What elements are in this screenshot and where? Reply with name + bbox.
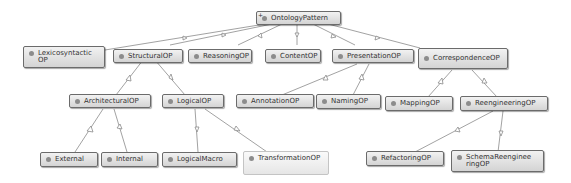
node-ontologypattern[interactable]: + OntologyPattern: [256, 11, 341, 25]
node-label: NamingOP: [331, 98, 368, 105]
node-transformationop[interactable]: TransformationOP: [243, 151, 329, 175]
node-label: AnnotationOP: [251, 98, 299, 105]
node-structuralop[interactable]: StructuralOP: [113, 49, 183, 63]
node-reasoningop[interactable]: ReasoningOP: [188, 49, 252, 63]
node-label: Lexicosyntactic OP: [38, 50, 92, 64]
class-icon: [107, 157, 112, 162]
node-logicalmacro[interactable]: LogicalMacro: [162, 152, 237, 167]
class-icon: [119, 54, 124, 59]
node-label: OntologyPattern: [271, 15, 328, 22]
node-label: CorrespondenceOP: [433, 55, 500, 62]
node-architecturalop[interactable]: ArchitecturalOP: [69, 94, 151, 108]
node-contentop[interactable]: ContentOP: [265, 49, 321, 63]
node-label: Internal: [116, 156, 143, 163]
node-label: LogicalOP: [177, 98, 211, 105]
class-icon: [338, 54, 343, 59]
node-label: RefactoringOP: [381, 155, 431, 162]
node-label: StructuralOP: [128, 53, 172, 60]
node-external[interactable]: External: [40, 152, 98, 167]
node-logicalop[interactable]: LogicalOP: [162, 94, 224, 108]
node-namingop[interactable]: NamingOP: [316, 94, 381, 109]
node-label: SchemaReenginee ringOP: [466, 154, 531, 168]
ontology-diagram: + OntologyPattern Lexicosyntactic OP Str…: [0, 0, 571, 183]
node-presentationop[interactable]: PresentationOP: [332, 49, 414, 63]
class-icon: [242, 99, 247, 104]
node-schemareengineeringop[interactable]: SchemaReenginee ringOP: [451, 150, 544, 172]
class-icon: [424, 56, 429, 61]
class-icon: [322, 99, 327, 104]
node-label: ReasoningOP: [203, 53, 249, 60]
node-label: External: [55, 156, 84, 163]
class-icon: [29, 51, 34, 56]
class-icon: [466, 101, 471, 106]
class-icon: [168, 99, 173, 104]
node-lexicosyntacticop[interactable]: Lexicosyntactic OP: [23, 46, 105, 68]
node-label: LogicalMacro: [177, 156, 223, 163]
class-icon: [46, 157, 51, 162]
expand-icon[interactable]: +: [258, 11, 263, 18]
node-label: PresentationOP: [347, 53, 401, 60]
class-icon: [271, 54, 276, 59]
class-icon: [457, 155, 462, 160]
node-internal[interactable]: Internal: [101, 152, 158, 167]
class-icon: [194, 54, 199, 59]
class-icon: [75, 99, 80, 104]
node-label: TransformationOP: [258, 155, 320, 162]
node-correspondenceop[interactable]: CorrespondenceOP: [418, 48, 508, 69]
node-reengineeringop[interactable]: ReengineeringOP: [460, 96, 548, 111]
class-icon: [372, 156, 377, 161]
node-label: ReengineeringOP: [475, 100, 535, 107]
node-label: ArchitecturalOP: [84, 98, 139, 105]
node-annotationop[interactable]: AnnotationOP: [236, 94, 314, 108]
class-icon: [249, 156, 254, 161]
class-icon: [168, 157, 173, 162]
node-mappingop[interactable]: MappingOP: [385, 96, 453, 111]
node-label: ContentOP: [280, 53, 318, 60]
node-label: MappingOP: [400, 100, 440, 107]
class-icon: [391, 101, 396, 106]
node-refactoringop[interactable]: RefactoringOP: [366, 151, 444, 166]
